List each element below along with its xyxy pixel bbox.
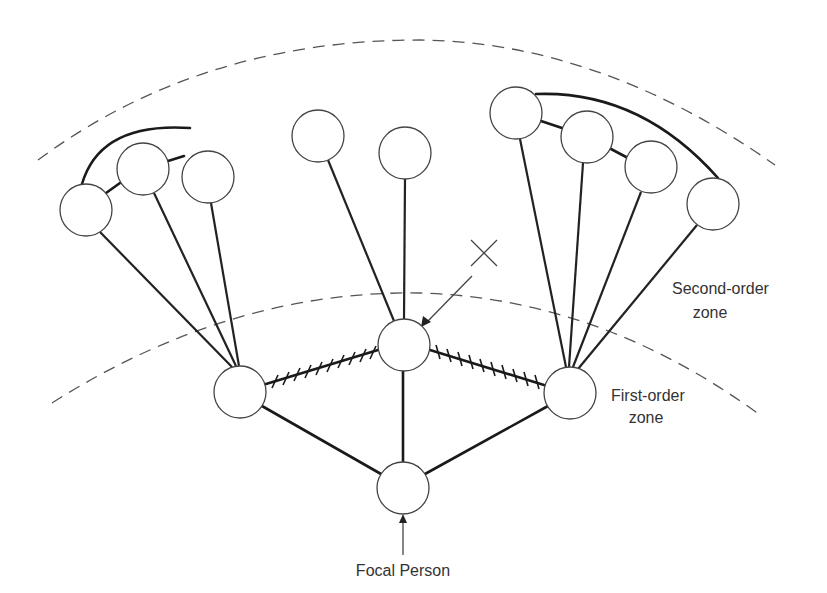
second-order-node-s9 (687, 178, 739, 230)
second-order-node-s6 (490, 87, 542, 139)
second-order-node-s1 (60, 184, 112, 236)
focal-ties (262, 371, 548, 474)
focal-person-node (377, 462, 429, 514)
second-order-node-s7 (561, 111, 613, 163)
focal-pointer-arrowhead (399, 514, 407, 523)
second-order-node-s3 (182, 151, 234, 203)
focal-person-label: Focal Person (356, 562, 450, 579)
second-order-node-s5 (379, 127, 431, 179)
hatched-tie-right (430, 345, 544, 389)
second-order-node-s4 (292, 110, 344, 162)
first-order-node-right (544, 367, 596, 419)
second-order-zone-label: Second-order (672, 280, 770, 297)
second-order-node-s8 (625, 141, 677, 193)
first-order-node-left (214, 366, 266, 418)
first-order-zone-label-2: zone (629, 409, 664, 426)
x-pointer-arrowhead (421, 316, 431, 327)
x-marker (471, 240, 497, 266)
left-cluster-ties (100, 193, 239, 367)
second-order-zone-label-2: zone (693, 304, 728, 321)
tie-center-to-s5 (404, 179, 405, 319)
hatched-tie-left (266, 346, 378, 388)
x-pointer-line (427, 276, 472, 322)
social-network-diagram: Second-order zone First-order zone Focal… (0, 0, 827, 593)
first-order-node-center-x (378, 319, 430, 371)
first-order-zone-label: First-order (611, 387, 685, 404)
second-order-node-s2 (117, 143, 169, 195)
